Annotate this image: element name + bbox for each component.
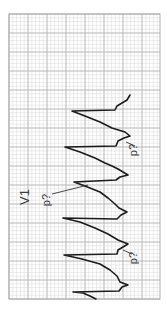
p-wave-annotation: p? bbox=[40, 194, 52, 206]
ecg-strip: p?p?p? V1 bbox=[0, 0, 167, 316]
p-wave-annotation: p? bbox=[127, 252, 139, 264]
lead-label-v1: V1 bbox=[17, 189, 32, 205]
p-wave-annotation: p? bbox=[127, 144, 139, 156]
